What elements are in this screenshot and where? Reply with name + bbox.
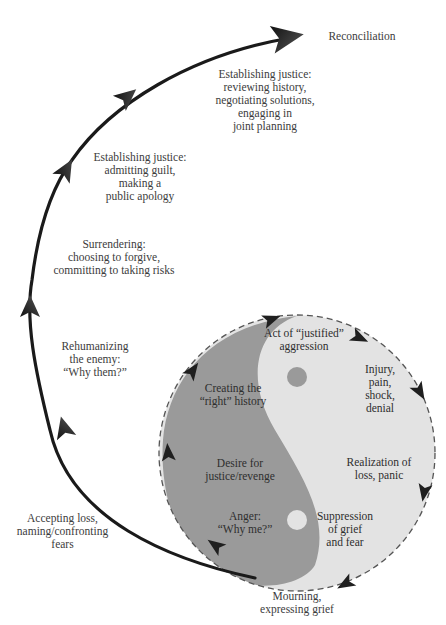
label-injury: Injury, pain, shock, denial — [350, 363, 410, 415]
violence-cycle-circle — [159, 315, 435, 591]
label-rehumanizing: Rehumanizing the enemy: “Why them?” — [50, 340, 140, 379]
label-mourning: Mourning, expressing grief — [247, 590, 347, 616]
label-right-history: Creating the “right” history — [188, 382, 278, 408]
yin-dot-dark — [287, 367, 307, 387]
label-suppression: Suppression of grief and fear — [305, 510, 385, 549]
label-justice-apology: Establishing justice: admitting guilt, m… — [80, 151, 200, 203]
label-aggression: Act of “justified” aggression — [254, 327, 354, 353]
label-justice-planning: Establishing justice: reviewing history,… — [190, 68, 340, 133]
label-reconciliation: Reconciliation — [312, 30, 412, 43]
path-arrow-icon — [52, 155, 80, 184]
label-realization: Realization of loss, panic — [334, 456, 424, 482]
label-surrendering: Surrendering: choosing to forgive, commi… — [44, 238, 184, 277]
path-arrow-icon — [51, 414, 76, 440]
label-accepting-loss: Accepting loss, naming/confronting fears — [10, 512, 115, 551]
label-desire: Desire for justice/revenge — [190, 457, 290, 483]
path-arrow-head-icon — [270, 20, 306, 53]
yang-dot-light — [287, 510, 307, 530]
label-anger: Anger: “Why me?” — [200, 510, 290, 536]
